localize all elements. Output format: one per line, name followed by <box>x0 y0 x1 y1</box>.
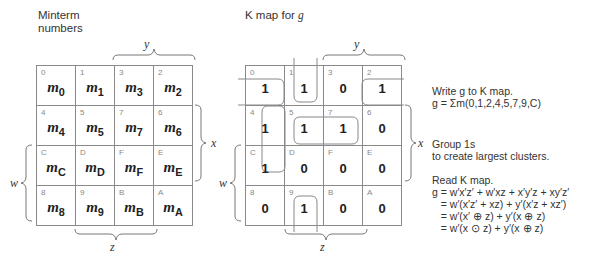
cell-index: 0 <box>250 68 254 77</box>
minterm-label: m8 <box>37 199 75 218</box>
cell-index: 2 <box>367 68 371 77</box>
minterm-subscript: 7 <box>137 126 143 138</box>
minterm-symbol: m <box>47 199 59 215</box>
minterm-label: m7 <box>115 119 153 138</box>
cell-index: 1 <box>289 68 293 77</box>
cell-index: A <box>158 188 163 197</box>
minterm-label: mD <box>76 159 114 178</box>
grid-row: 41517160 <box>246 106 402 146</box>
grid-cell: 9m9 <box>76 186 115 226</box>
minterm-label: mA <box>154 199 192 218</box>
cell-value: 1 <box>324 121 362 136</box>
cell-index: 5 <box>80 108 84 117</box>
grid-cell: A0 <box>363 186 402 226</box>
grid-cell: 41 <box>246 106 285 146</box>
minterm-symbol: m <box>86 79 98 95</box>
minterm-symbol: m <box>164 79 176 95</box>
grid-cell: 2m2 <box>154 66 193 106</box>
minterm-label: m9 <box>76 199 114 218</box>
minterm-symbol: m <box>47 119 59 135</box>
grid-cell: E0 <box>363 146 402 186</box>
grid-cell: 4m4 <box>37 106 76 146</box>
cell-index: E <box>158 148 163 157</box>
step-group-line2: to create largest clusters. <box>432 150 549 162</box>
grid-cell: 80 <box>246 186 285 226</box>
minterm-subscript: 6 <box>176 126 182 138</box>
cell-index: 1 <box>80 68 84 77</box>
grid-row: 01113021 <box>246 66 402 106</box>
kmap-title-prefix: K map for <box>245 9 298 21</box>
minterm-label: m3 <box>115 79 153 98</box>
step-group-line1: Group 1s <box>432 138 549 150</box>
cell-value: 1 <box>285 81 323 96</box>
grid-cell: 8m8 <box>37 186 76 226</box>
grid-cell: 0m0 <box>37 66 76 106</box>
grid-cell: 01 <box>246 66 285 106</box>
left-x-label: x <box>211 136 216 151</box>
cell-index: 0 <box>41 68 45 77</box>
cell-index: D <box>80 148 86 157</box>
cell-value: 0 <box>363 161 401 176</box>
step-write-line1: Write g to K map. <box>432 85 541 97</box>
cell-index: 6 <box>158 108 162 117</box>
grid-row: C1D0F0E0 <box>246 146 402 186</box>
cell-index: 7 <box>119 108 123 117</box>
cell-index: C <box>41 148 47 157</box>
step-write-formula: g = Σm(0,1,2,4,5,7,9,C) <box>432 97 541 109</box>
cell-value: 0 <box>246 201 284 216</box>
minterm-subscript: 5 <box>98 126 104 138</box>
step-write: Write g to K map. g = Σm(0,1,2,4,5,7,9,C… <box>432 85 541 109</box>
grid-cell: AmA <box>154 186 193 226</box>
kmap-title-var: g <box>298 9 304 21</box>
minterm-subscript: 1 <box>98 86 104 98</box>
grid-cell: 1m1 <box>76 66 115 106</box>
cell-value: 1 <box>246 81 284 96</box>
minterm-subscript: 2 <box>176 86 182 98</box>
step-read-title: Read K map. <box>432 174 569 186</box>
step-read: Read K map. g = w′x′z′ + w′xz + x′y′z + … <box>432 174 569 234</box>
minterm-label: m6 <box>154 119 192 138</box>
grid-row: 0m01m13m32m2 <box>37 66 193 106</box>
minterm-subscript: 8 <box>59 206 65 218</box>
cell-index: B <box>328 188 333 197</box>
left-w-label: w <box>10 176 18 191</box>
minterm-symbol: m <box>163 199 175 215</box>
minterm-symbol: m <box>124 199 136 215</box>
cell-index: 2 <box>158 68 162 77</box>
cell-value: 0 <box>324 161 362 176</box>
grid-cell: CmC <box>37 146 76 186</box>
grid-cell: 7m7 <box>115 106 154 146</box>
minterm-subscript: D <box>97 166 105 178</box>
grid-row: CmCDmDFmFEmE <box>37 146 193 186</box>
grid-cell: 91 <box>285 186 324 226</box>
minterm-symbol: m <box>164 119 176 135</box>
cell-value: 1 <box>285 201 323 216</box>
grid-row: 4m45m57m76m6 <box>37 106 193 146</box>
equation-line-4: = w′(x ⊙ z) + y′(x ⊕ z) <box>432 222 569 234</box>
cell-index: A <box>367 188 372 197</box>
minterm-subscript: F <box>137 166 144 178</box>
grid-cell: C1 <box>246 146 285 186</box>
minterm-symbol: m <box>125 159 137 175</box>
cell-index: E <box>367 148 372 157</box>
grid-row: 8m89m9BmBAmA <box>37 186 193 226</box>
cell-index: 4 <box>41 108 45 117</box>
grid-cell: 5m5 <box>76 106 115 146</box>
cell-index: D <box>289 148 295 157</box>
grid-cell: D0 <box>285 146 324 186</box>
grid-cell: 21 <box>363 66 402 106</box>
minterm-subscript: E <box>175 166 182 178</box>
minterm-grid: 0m01m13m32m24m45m57m76m6CmCDmDFmFEmE8m89… <box>36 65 193 226</box>
minterm-label: mC <box>37 159 75 178</box>
cell-value: 0 <box>363 121 401 136</box>
minterm-symbol: m <box>125 79 137 95</box>
minterm-symbol: m <box>125 119 137 135</box>
right-x-label: x <box>418 136 423 151</box>
minterm-symbol: m <box>47 79 59 95</box>
equation-line-2: = w′(x′z′ + xz) + y′(x′z + xz′) <box>432 198 569 210</box>
cell-value: 1 <box>246 121 284 136</box>
cell-value: 0 <box>285 161 323 176</box>
left-y-label: y <box>144 37 149 52</box>
minterm-label: m5 <box>76 119 114 138</box>
minterm-subscript: 4 <box>59 126 65 138</box>
